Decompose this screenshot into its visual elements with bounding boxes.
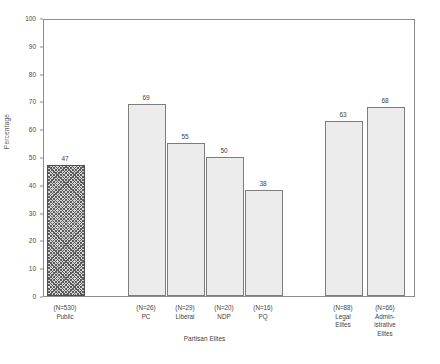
- bar-value-label: 55: [181, 134, 188, 141]
- y-tick-label: 60: [0, 127, 36, 134]
- y-tick-label: 30: [0, 210, 36, 217]
- bar: [47, 165, 85, 296]
- bar: [367, 107, 405, 296]
- y-tick-label: 20: [0, 238, 36, 245]
- y-tick-label: 100: [0, 16, 36, 23]
- x-category-label: (N=26) PC: [136, 304, 155, 321]
- x-axis-title: Partisan Elites: [184, 335, 226, 342]
- x-category-label: (N=16) PQ: [253, 304, 272, 321]
- x-category-label: (N=66) Admin- istrative Elites: [374, 304, 396, 338]
- bar-value-label: 63: [339, 112, 346, 119]
- y-tick-label: 0: [0, 294, 36, 301]
- bar: [245, 190, 283, 296]
- y-tick-label: 50: [0, 155, 36, 162]
- bar: [167, 143, 205, 296]
- bar-chart: Percentage 1009080706050403020100 476955…: [0, 0, 440, 364]
- x-category-label: (N=20) NDP: [214, 304, 233, 321]
- bar-value-label: 50: [220, 148, 227, 155]
- bar-value-label: 68: [381, 98, 388, 105]
- y-tick-label: 70: [0, 99, 36, 106]
- plot-area: [43, 19, 415, 297]
- bar-value-label: 69: [142, 95, 149, 102]
- x-category-label: (N=530) Public: [54, 304, 77, 321]
- y-tick-label: 80: [0, 71, 36, 78]
- bar: [206, 157, 244, 296]
- bar-value-label: 38: [259, 181, 266, 188]
- y-tick-label: 10: [0, 266, 36, 273]
- bar-value-label: 47: [61, 156, 68, 163]
- bar: [325, 121, 363, 296]
- y-tick-label: 90: [0, 44, 36, 51]
- x-category-label: (N=88) Legal Elites: [333, 304, 352, 330]
- bar: [128, 104, 166, 296]
- x-category-label: (N=29) Liberal: [175, 304, 194, 321]
- y-tick-label: 40: [0, 183, 36, 190]
